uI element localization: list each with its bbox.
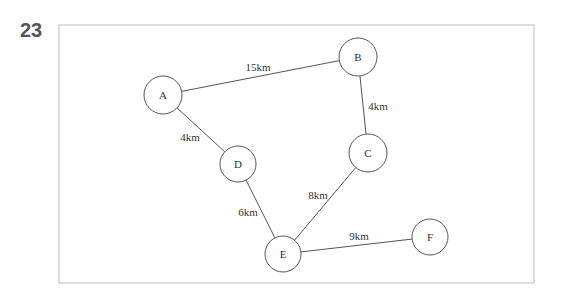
node-label: E <box>280 248 287 260</box>
node-a: A <box>144 76 182 114</box>
node-label: A <box>159 89 167 101</box>
edge-c-e <box>295 168 356 241</box>
node-label: C <box>364 147 371 159</box>
node-b: B <box>339 38 377 76</box>
edge-label-e-f: 9km <box>349 230 369 242</box>
node-label: B <box>354 51 361 63</box>
edge-a-d <box>177 108 225 152</box>
nodes-group: ABCDEF <box>144 38 448 272</box>
node-label: D <box>234 158 242 170</box>
edge-b-c <box>360 76 366 134</box>
edge-label-a-d: 4km <box>180 131 200 143</box>
node-d: D <box>220 146 256 182</box>
edge-label-b-c: 4km <box>368 100 388 112</box>
node-c: C <box>349 134 387 172</box>
edge-label-d-e: 6km <box>238 206 258 218</box>
node-e: E <box>265 236 301 272</box>
route-graph-diagram: ABCDEF 15km4km4km8km6km9km <box>0 0 561 298</box>
edge-label-a-b: 15km <box>245 61 271 73</box>
node-f: F <box>412 219 448 255</box>
edge-label-c-e: 8km <box>308 189 328 201</box>
node-label: F <box>427 231 433 243</box>
